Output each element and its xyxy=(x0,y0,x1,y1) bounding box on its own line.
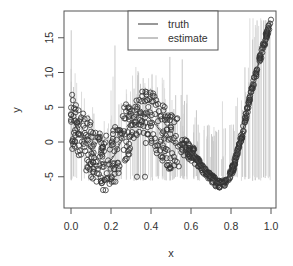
y-tick-label: 5 xyxy=(43,104,55,110)
x-tick-label: 1.0 xyxy=(264,220,279,232)
y-tick-label: 15 xyxy=(43,32,55,44)
legend-estimate-label: estimate xyxy=(168,32,208,44)
x-axis: 0.00.20.40.60.81.0 xyxy=(64,208,279,232)
legend: truth estimate xyxy=(128,11,218,50)
legend-truth-label: truth xyxy=(168,18,189,30)
y-axis: -5051015 xyxy=(43,32,64,182)
y-tick-label: 10 xyxy=(43,67,55,79)
y-axis-title: y xyxy=(10,107,22,113)
x-tick-label: 0.6 xyxy=(184,220,199,232)
y-tick-label: 0 xyxy=(43,139,55,145)
legend-box xyxy=(128,11,218,50)
x-tick-label: 0.0 xyxy=(64,220,79,232)
x-tick-label: 0.8 xyxy=(224,220,239,232)
x-tick-label: 0.2 xyxy=(104,220,119,232)
y-tick-label: -5 xyxy=(43,172,55,181)
x-tick-label: 0.4 xyxy=(144,220,159,232)
x-axis-title: x xyxy=(168,247,174,259)
chart: 0.00.20.40.60.81.0 -5051015 x y truth es… xyxy=(0,0,293,266)
